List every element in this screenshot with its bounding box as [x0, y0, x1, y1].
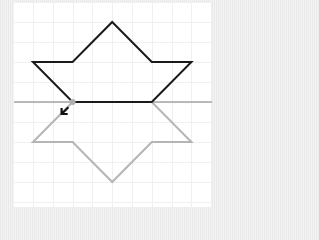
- diagram-svg: [14, 2, 212, 207]
- drawing-canvas[interactable]: [14, 2, 212, 207]
- vertex-handle[interactable]: [70, 99, 76, 105]
- grid: [14, 2, 212, 207]
